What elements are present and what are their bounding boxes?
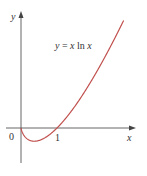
- curve-x-ln-x: [21, 21, 124, 142]
- equation-label: y = x ln x: [54, 40, 92, 51]
- tick-label-1: 1: [55, 132, 60, 143]
- x-axis-arrow-icon: [129, 126, 136, 131]
- origin-label: 0: [9, 131, 14, 142]
- x-axis-label: x: [126, 132, 132, 143]
- y-axis-arrow-icon: [19, 11, 24, 18]
- y-axis-label: y: [10, 11, 16, 22]
- chart: y x 0 1 y = x ln x: [0, 0, 147, 176]
